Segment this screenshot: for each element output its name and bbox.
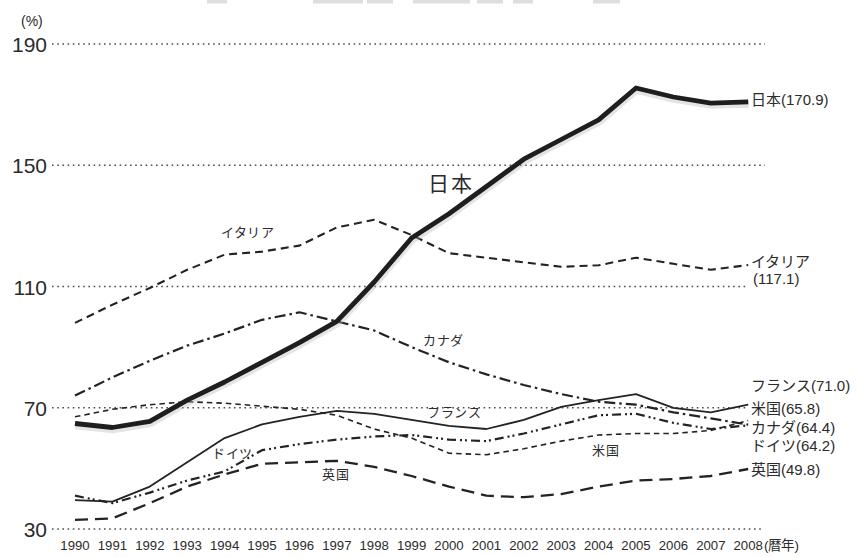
series-inline-label-canada: カナダ — [423, 333, 464, 348]
x-axis-suffix-label: (暦年) — [764, 538, 799, 553]
gridlines-group — [52, 44, 765, 529]
debt-to-gdp-line-chart-figure: (%) (暦年) 1901501107030199019911992199319… — [0, 0, 866, 557]
x-tick-1997: 1997 — [322, 538, 351, 553]
x-tick-1999: 1999 — [397, 538, 426, 553]
series-inline-label-uk: 英国 — [322, 467, 349, 482]
x-tick-2008: 2008 — [734, 538, 763, 553]
cropped-title-fragment — [513, 0, 533, 4]
debt-chart-svg: (%) (暦年) 1901501107030199019911992199319… — [0, 0, 866, 557]
y-tick-110: 110 — [14, 276, 47, 299]
series-end-label-france: フランス(71.0) — [751, 377, 850, 394]
x-tick-1998: 1998 — [360, 538, 389, 553]
series-inline-label-usa: 米国 — [592, 443, 619, 458]
cropped-title-fragment — [313, 0, 363, 4]
series-end-label-usa: 米国(65.8) — [751, 400, 820, 417]
x-tick-2002: 2002 — [509, 538, 538, 553]
y-tick-70: 70 — [24, 397, 47, 420]
series-inline-label-france: フランス — [427, 405, 481, 420]
x-tick-1992: 1992 — [135, 538, 164, 553]
x-tick-2006: 2006 — [659, 538, 688, 553]
series-end-label-japan: 日本(170.9) — [751, 91, 829, 108]
x-tick-2000: 2000 — [434, 538, 463, 553]
cropped-title-artifact — [207, 0, 620, 4]
x-tick-2003: 2003 — [547, 538, 576, 553]
x-tick-1991: 1991 — [98, 538, 127, 553]
cropped-title-fragment — [413, 0, 470, 4]
y-tick-190: 190 — [12, 33, 47, 56]
x-tick-2001: 2001 — [472, 538, 501, 553]
x-tick-1996: 1996 — [285, 538, 314, 553]
cropped-title-fragment — [367, 0, 393, 4]
x-tick-2007: 2007 — [696, 538, 725, 553]
series-end-label-germany: ドイツ(64.2) — [751, 437, 835, 454]
series-inline-label-germany: ドイツ — [212, 446, 253, 461]
cropped-title-fragment — [593, 0, 620, 4]
y-tick-30: 30 — [24, 518, 47, 541]
x-tick-1990: 1990 — [60, 538, 89, 553]
series-end-label-uk: 英国(49.8) — [751, 461, 820, 478]
x-tick-1995: 1995 — [247, 538, 276, 553]
series-line-japan — [75, 88, 748, 428]
axis-labels-group: (%) (暦年) 1901501107030199019911992199319… — [12, 13, 799, 553]
series-inline-label-italy: イタリア — [221, 225, 274, 240]
cropped-title-fragment — [207, 0, 227, 4]
x-tick-2005: 2005 — [621, 538, 650, 553]
series-line-germany — [75, 414, 748, 503]
series-end-label-canada: カナダ(64.4) — [751, 419, 835, 436]
cropped-title-fragment — [477, 0, 503, 4]
y-tick-150: 150 — [12, 154, 47, 177]
series-end-label-italy: イタリア — [751, 253, 810, 270]
x-tick-1994: 1994 — [210, 538, 239, 553]
y-axis-unit-label: (%) — [21, 13, 43, 29]
series-end-label-italy-line2: (117.1) — [753, 270, 799, 287]
series-lines-group — [75, 88, 749, 520]
x-tick-1993: 1993 — [173, 538, 202, 553]
x-tick-2004: 2004 — [584, 538, 613, 553]
series-inline-label-japan: 日本 — [428, 172, 474, 195]
